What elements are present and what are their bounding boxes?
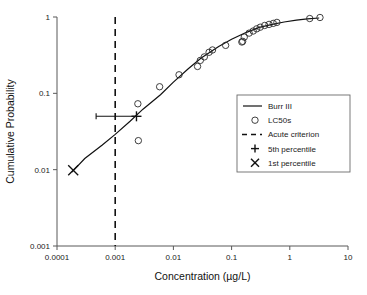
legend-item-label: Burr III — [268, 102, 292, 111]
x-tick-label: 0.0001 — [45, 253, 70, 262]
legend-item-label: 5th percentile — [268, 145, 317, 154]
y-axis-ticks: 0.0010.010.11 — [30, 13, 57, 251]
x-tick-label: 0.01 — [166, 253, 182, 262]
chart-figure: 0.00010.0010.010.1110 0.0010.010.11 Burr… — [0, 0, 367, 295]
lc50-point — [156, 84, 162, 90]
y-tick-label: 1 — [46, 13, 51, 22]
lc50-point — [274, 19, 280, 25]
x-axis-title: Concentration (µg/L) — [155, 270, 251, 282]
y-axis-title: Cumulative Probability — [4, 79, 16, 184]
chart-svg: 0.00010.0010.010.1110 0.0010.010.11 Burr… — [0, 0, 367, 295]
legend-item-label: Acute criterion — [268, 130, 319, 139]
x-axis-ticks: 0.00010.0010.010.1110 — [45, 246, 353, 262]
chart-legend: Burr IIILC50sAcute criterion5th percenti… — [237, 95, 350, 172]
legend-item-label: LC50s — [268, 116, 291, 125]
lc50-point — [135, 101, 141, 107]
y-tick-label: 0.001 — [30, 242, 51, 251]
y-tick-label: 0.01 — [34, 166, 50, 175]
lc50-point — [194, 63, 200, 69]
lc50-point — [135, 137, 141, 143]
first-percentile-marker — [68, 165, 78, 175]
x-tick-label: 10 — [344, 253, 353, 262]
x-tick-label: 1 — [288, 253, 293, 262]
x-tick-label: 0.1 — [226, 253, 238, 262]
y-tick-label: 0.1 — [39, 89, 51, 98]
lc50-point — [317, 14, 323, 20]
legend-item-label: 1st percentile — [268, 159, 316, 168]
fifth-percentile-marker — [96, 111, 141, 121]
x-tick-label: 0.001 — [105, 253, 126, 262]
